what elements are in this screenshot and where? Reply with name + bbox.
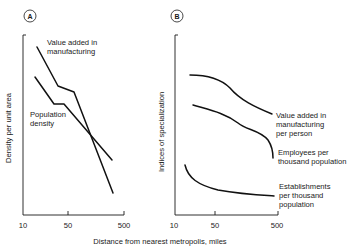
- panel-a-label-value-added-2: manufacturing: [47, 47, 95, 56]
- panel-a-xtick-500: 500: [118, 221, 131, 230]
- panel-a-label-population-2: density: [30, 119, 54, 128]
- panel-a-badge: A: [27, 13, 32, 20]
- panel-a-xtick-10: 10: [19, 221, 27, 230]
- panel-b-axes: [175, 35, 278, 215]
- panel-b-line-establishments: [185, 165, 274, 196]
- panel-b: B 10 50 500 Indices of specialization Va…: [157, 10, 346, 230]
- panel-a: A 10 50 500 Density per unit area Value …: [4, 10, 130, 230]
- panel-b-label-value-added-1: Value added in: [276, 111, 326, 120]
- x-axis-label: Distance from nearest metropolis, miles: [93, 237, 227, 246]
- panel-b-label-establishments-1: Establishments: [279, 182, 331, 191]
- panel-b-badge: B: [174, 13, 179, 20]
- panel-a-xtick-50: 50: [64, 221, 72, 230]
- panel-a-label-population-1: Population: [30, 110, 66, 119]
- panel-b-ylabel: Indices of specialization: [157, 92, 166, 172]
- panel-b-label-establishments-2: per thousand: [279, 191, 323, 200]
- panel-b-label-value-added-2: manufacturing: [276, 120, 324, 129]
- panel-b-label-value-added-3: per person: [276, 129, 312, 138]
- panel-b-label-employees-2: thousand population: [278, 157, 346, 166]
- panel-b-label-establishments-3: population: [279, 200, 314, 209]
- figure: A 10 50 500 Density per unit area Value …: [0, 0, 355, 250]
- panel-b-xtick-10: 10: [170, 221, 178, 230]
- panel-a-ylabel: Density per unit area: [4, 92, 13, 163]
- panel-b-xtick-500: 500: [271, 221, 284, 230]
- panel-b-xtick-50: 50: [211, 221, 219, 230]
- panel-b-line-employees: [193, 105, 273, 158]
- panel-a-label-value-added-1: Value added in: [47, 38, 97, 47]
- panel-b-label-employees-1: Employees per: [278, 148, 329, 157]
